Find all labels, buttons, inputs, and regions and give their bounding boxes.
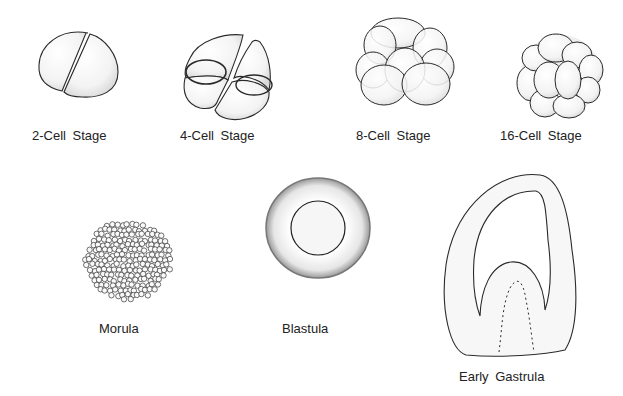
sixteen-cell-stage-figure [517, 34, 603, 118]
blastula-figure [266, 178, 370, 278]
early-gastrula-figure [444, 175, 576, 357]
label-4-cell-stage: 4-Cell Stage [180, 128, 255, 143]
morula-figure [83, 221, 173, 302]
label-blastula: Blastula [282, 321, 328, 336]
label-8-cell-stage: 8-Cell Stage [356, 128, 431, 143]
eight-cell-stage-figure [356, 18, 454, 105]
four-cell-stage-figure [184, 35, 272, 120]
embryo-diagram [0, 0, 623, 396]
label-early-gastrula: Early Gastrula [459, 369, 544, 384]
label-morula: Morula [99, 321, 139, 336]
label-2-cell-stage: 2-Cell Stage [32, 128, 107, 143]
two-cell-stage-figure [39, 32, 118, 97]
label-16-cell-stage: 16-Cell Stage [500, 128, 582, 143]
